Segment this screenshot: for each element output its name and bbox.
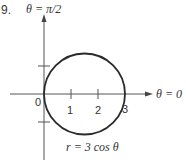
- tick-label-2: 2: [95, 104, 101, 116]
- tick-label-1: 1: [67, 104, 73, 116]
- problem-number: 9.: [1, 3, 11, 17]
- curve-equation-label: r = 3 cos θ: [66, 140, 119, 155]
- tick-label-0: 0: [35, 96, 41, 108]
- vertical-axis-label: θ = π/2: [26, 2, 61, 17]
- horizontal-arrow-icon: [145, 92, 153, 97]
- horizontal-axis-label: θ = 0: [156, 87, 182, 102]
- tick-label-3: 3: [122, 103, 128, 115]
